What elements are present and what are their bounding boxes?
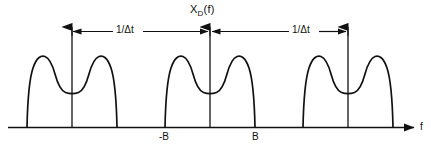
frequency-axis-label: f — [420, 122, 423, 132]
bandwidth-label-positive: B — [252, 132, 259, 142]
plot-title: XD(f) — [190, 4, 215, 18]
plot-title-main: X — [190, 3, 198, 15]
figure-container: XD(f) 1/Δt 1/Δt -B B f — [0, 0, 431, 154]
period-label-left: 1/Δt — [116, 25, 134, 35]
period-label-right: 1/Δt — [292, 25, 310, 35]
plot-title-argument: (f) — [204, 3, 215, 15]
bandwidth-label-negative: -B — [159, 132, 169, 142]
spectrum-replica-plot — [0, 0, 431, 154]
